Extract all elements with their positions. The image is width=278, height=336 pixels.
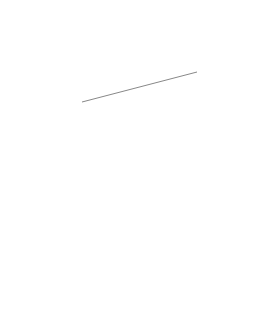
connector-lines bbox=[0, 0, 278, 336]
connector-root-to-left bbox=[82, 72, 197, 102]
